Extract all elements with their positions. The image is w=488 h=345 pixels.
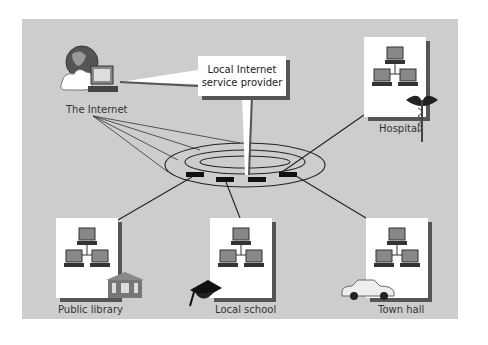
- school-label: Local school: [215, 304, 276, 315]
- internet-node: [60, 44, 124, 96]
- isp-callout: Local Internet service provider: [198, 56, 286, 96]
- police-car-icon: [340, 276, 400, 302]
- internet-label: The Internet: [66, 104, 127, 115]
- caduceus-icon: [404, 92, 440, 144]
- hospital-label: Hospital: [379, 123, 420, 134]
- library-label: Public library: [58, 304, 123, 315]
- isp-label-line1: Local Internet: [198, 63, 286, 76]
- townhall-label: Town hall: [378, 304, 424, 315]
- library-building-icon: [104, 270, 146, 300]
- globe-computer-icon: [60, 44, 124, 96]
- isp-label-line2: service provider: [198, 76, 286, 89]
